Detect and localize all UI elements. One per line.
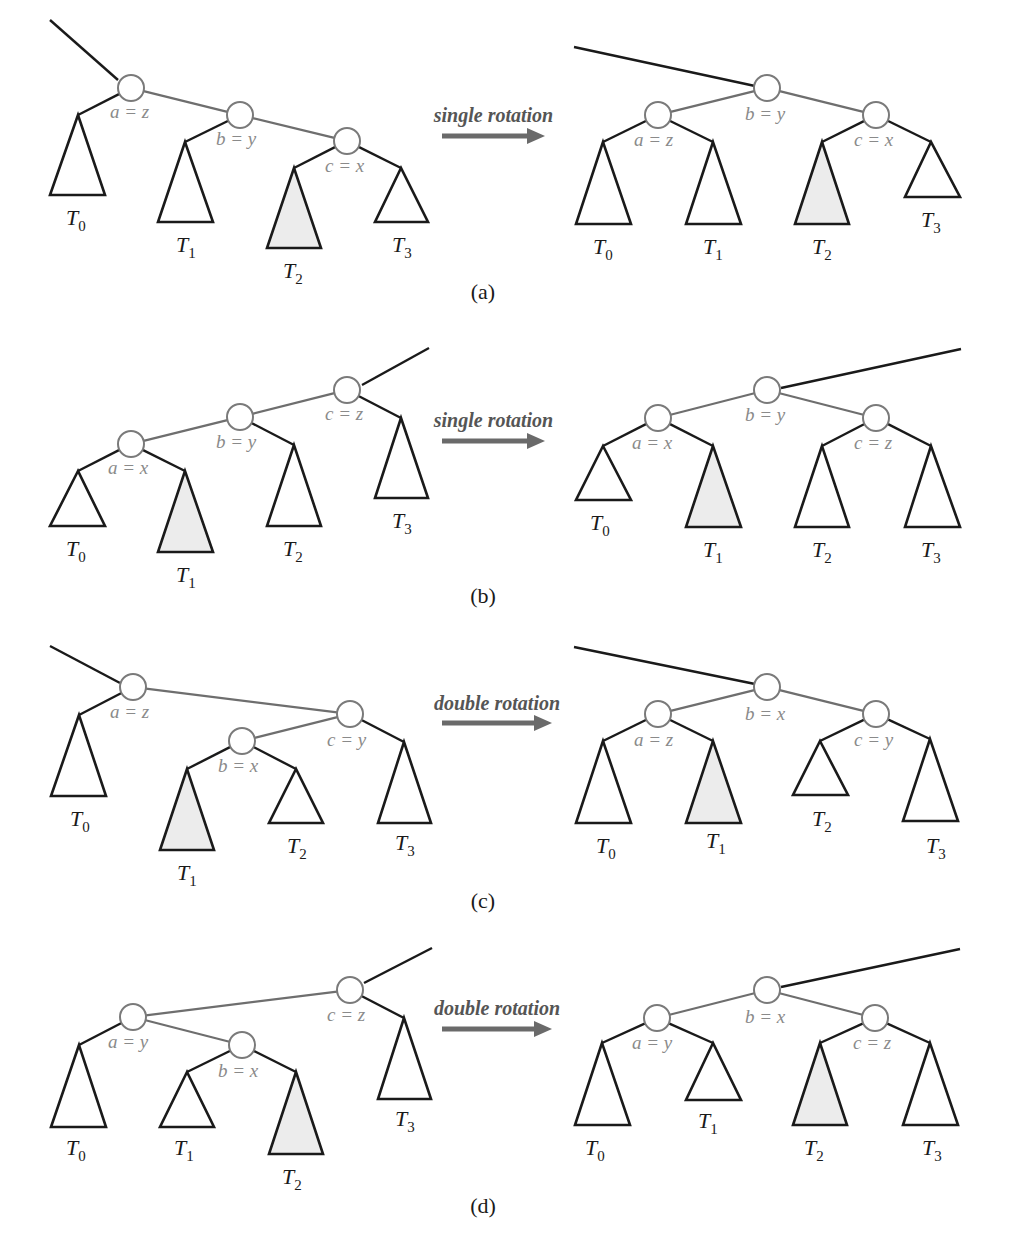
panel-a: T0T1T2T3a = zb = yc = xT0T1T2T3b = ya = …	[50, 20, 960, 304]
parent-edge	[781, 949, 960, 987]
node-label: c = z	[854, 432, 893, 453]
rotation-arrow-icon	[442, 1021, 552, 1037]
tree-node-b	[229, 1032, 255, 1058]
node-label: c = z	[853, 1032, 892, 1053]
subtree-edge	[670, 424, 713, 446]
node-label: b = y	[745, 404, 786, 425]
subtree-triangle-T3	[375, 168, 428, 222]
subtree-edge	[143, 450, 185, 471]
rotation-type-label: double rotation	[434, 997, 560, 1019]
subtree-label: T0	[596, 833, 616, 862]
subtree-label: T1	[177, 860, 197, 889]
subtree-triangle-T3	[378, 742, 431, 823]
subtree-label: T3	[922, 1135, 942, 1164]
subtree-triangle-T1	[686, 1043, 741, 1100]
subtree-triangle-T3	[905, 446, 960, 527]
subtree-triangle-T0	[576, 741, 631, 823]
tree-node-a	[645, 102, 671, 128]
subtree-label: T0	[66, 205, 86, 234]
parent-edge	[781, 349, 961, 388]
subtree-triangle-T2	[267, 168, 321, 248]
subtree-label: T1	[698, 1108, 718, 1137]
subtree-label: T2	[812, 234, 832, 263]
subtree-edge	[888, 719, 930, 739]
node-label: a = z	[110, 101, 150, 122]
subtree-label: T3	[921, 537, 941, 566]
parent-edge	[50, 646, 120, 683]
node-edge-b-a	[671, 690, 755, 711]
subtree-triangle-T0	[51, 1045, 106, 1127]
parent-edge	[574, 647, 755, 684]
subtree-edge	[252, 423, 294, 445]
tree-node-a	[118, 431, 144, 457]
parent-edge	[50, 20, 118, 80]
subtree-triangle-T1	[686, 741, 741, 823]
tree-node-c	[863, 405, 889, 431]
tree-node-c	[334, 128, 360, 154]
node-edge-b-c	[780, 91, 864, 112]
tree-before: T0T1T2T3c = za = yb = x	[51, 948, 432, 1193]
tree-node-b	[754, 977, 780, 1003]
subtree-triangle-T1	[686, 446, 741, 527]
node-edge-b-a	[670, 993, 755, 1015]
node-label: c = y	[854, 729, 894, 750]
subtree-label: T2	[283, 536, 303, 565]
tree-node-b	[754, 377, 780, 403]
tree-node-c	[334, 377, 360, 403]
panel-caption: (b)	[470, 583, 496, 608]
subtree-label: T2	[287, 833, 307, 862]
subtree-label: T2	[282, 1164, 302, 1193]
panel-c: T0T1T2T3a = zc = yb = xT0T1T2T3b = xa = …	[50, 646, 958, 913]
subtree-triangle-T2	[793, 1043, 847, 1125]
subtree-label: T3	[926, 833, 946, 862]
subtree-label: T1	[174, 1135, 194, 1164]
subtree-label: T0	[590, 510, 610, 539]
subtree-triangle-T1	[158, 471, 213, 552]
tree-node-a	[645, 405, 671, 431]
subtree-edge	[359, 147, 401, 168]
rotation-type-label: single rotation	[433, 409, 553, 432]
tree-node-a	[645, 701, 671, 727]
subtree-label: T0	[66, 536, 86, 565]
subtree-label: T3	[395, 1106, 415, 1135]
subtree-edge	[888, 121, 931, 142]
node-edge-a-b	[146, 1020, 230, 1042]
node-edge-c-a	[146, 992, 337, 1016]
subtree-edge	[670, 720, 713, 741]
node-label: b = y	[216, 431, 257, 452]
subtree-triangle-T0	[51, 715, 106, 796]
tree-after: T0T1T2T3b = xa = zc = y	[574, 647, 958, 862]
rotation-type-label: double rotation	[434, 692, 560, 714]
subtree-label: T0	[66, 1135, 86, 1164]
node-edge-c-b	[255, 717, 338, 738]
subtree-triangle-T0	[50, 471, 105, 526]
tree-node-c	[337, 977, 363, 1003]
subtree-triangle-T3	[375, 418, 428, 498]
subtree-triangle-T2	[267, 445, 321, 526]
subtree-triangle-T2	[795, 142, 849, 224]
subtree-label: T2	[812, 537, 832, 566]
rotation-type-label: single rotation	[433, 104, 553, 127]
tree-node-c	[862, 1005, 888, 1031]
parent-edge	[362, 348, 429, 385]
node-label: b = x	[745, 1006, 786, 1027]
node-label: a = y	[108, 1031, 149, 1052]
subtree-label: T0	[70, 806, 90, 835]
node-label: a = z	[634, 129, 674, 150]
tree-node-a	[118, 75, 144, 101]
node-label: b = y	[216, 128, 257, 149]
subtree-triangle-T1	[160, 769, 214, 850]
subtree-label: T3	[392, 232, 412, 261]
subtree-label: T1	[176, 562, 196, 591]
subtree-edge	[362, 720, 404, 742]
trinode-restructuring-figure: T0T1T2T3a = zb = yc = xT0T1T2T3b = ya = …	[0, 0, 1009, 1253]
tree-after: T0T1T2T3b = ya = zc = x	[574, 47, 960, 263]
tree-node-b	[754, 75, 780, 101]
node-label: b = x	[218, 755, 259, 776]
subtree-triangle-T0	[576, 142, 631, 224]
node-edge-b-c	[253, 118, 335, 138]
tree-node-b	[754, 674, 780, 700]
parent-edge	[574, 47, 755, 86]
tree-node-a	[120, 1004, 146, 1030]
node-edge-b-c	[780, 690, 864, 711]
